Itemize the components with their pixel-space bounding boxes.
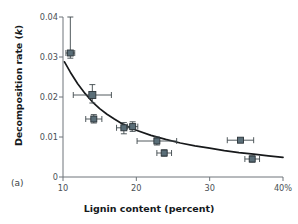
- data-marker: [121, 125, 127, 131]
- data-marker: [89, 92, 96, 99]
- data-marker: [91, 116, 97, 122]
- y-tick-label: 0.01: [10, 132, 58, 142]
- y-tick-label: 0: [10, 172, 58, 182]
- x-tick-label: 20: [116, 183, 156, 193]
- x-tick-label: 10: [43, 183, 83, 193]
- data-point: [157, 150, 172, 156]
- data-marker: [237, 137, 243, 143]
- x-tick-label: 40%: [263, 183, 298, 193]
- data-point: [117, 123, 132, 134]
- fit-curve: [64, 62, 283, 158]
- y-tick-label: 0.03: [10, 52, 58, 62]
- data-marker: [130, 124, 136, 130]
- data-point: [245, 156, 260, 162]
- data-marker: [67, 50, 73, 56]
- y-tick-label: 0.02: [10, 92, 58, 102]
- data-point: [137, 137, 177, 145]
- data-point: [73, 85, 111, 103]
- data-marker: [154, 138, 160, 144]
- y-tick-label: 0.04: [10, 12, 58, 22]
- data-point: [66, 17, 75, 58]
- data-point: [227, 137, 253, 143]
- x-tick-label: 30: [190, 183, 230, 193]
- data-marker: [249, 156, 255, 162]
- figure-panel-a: Decomposition rate (k) Lignin content (p…: [0, 0, 298, 224]
- data-point: [86, 115, 102, 123]
- data-marker: [161, 150, 167, 156]
